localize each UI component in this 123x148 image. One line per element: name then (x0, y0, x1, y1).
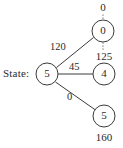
edge-label-root-top: 120 (50, 42, 66, 53)
node-label-child-bottom: 5 (97, 110, 111, 121)
node-label-child-top: 0 (96, 25, 110, 36)
state-transition-figure: State: 5 0 4 5 120 45 0 0 125 160 (0, 0, 123, 148)
node-label-child-middle: 4 (97, 68, 111, 79)
edge-label-root-bottom: 0 (67, 92, 72, 103)
annotation-top-value: 0 (96, 2, 110, 13)
edge-label-root-middle: 45 (69, 62, 80, 73)
annotation-bottom-value: 160 (92, 132, 116, 143)
state-prefix-label: State: (3, 68, 29, 79)
annotation-middle-value: 125 (92, 51, 116, 62)
edge-line-root-bottom (56, 82, 96, 110)
node-label-root: 5 (40, 68, 54, 79)
